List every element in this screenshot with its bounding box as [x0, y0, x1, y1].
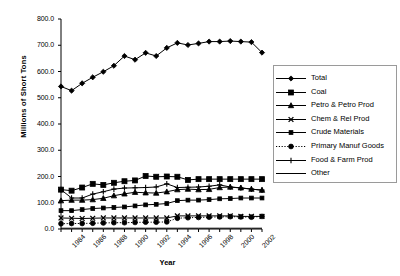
legend-marker-line-icon: [274, 166, 308, 179]
legend-label: Crude Materials: [308, 125, 364, 138]
legend-label: Other: [308, 166, 330, 179]
legend-marker-diamond-icon: [274, 71, 308, 84]
legend-item[interactable]: Petro & Petro Prod: [274, 98, 398, 111]
legend-label: Chem & Rel Prod: [308, 112, 369, 125]
legend-item[interactable]: Coal: [274, 85, 398, 98]
legend-marker-x-icon: [274, 112, 308, 125]
legend-marker-plus-icon: [274, 153, 308, 166]
legend-label: Food & Farm Prod: [308, 153, 373, 166]
legend-marker-square-small-icon: [274, 125, 308, 138]
legend-marker-triangle-icon: [274, 98, 308, 111]
legend-marker-circle-icon: [274, 139, 308, 152]
legend-item[interactable]: Total: [274, 71, 398, 84]
chart-legend: TotalCoalPetro & Petro ProdChem & Rel Pr…: [273, 65, 397, 183]
legend-item[interactable]: Chem & Rel Prod: [274, 112, 398, 125]
legend-marker-square-icon: [274, 85, 308, 98]
legend-item[interactable]: Other: [274, 166, 398, 179]
legend-item[interactable]: Primary Manuf Goods: [274, 139, 398, 152]
legend-label: Petro & Petro Prod: [308, 98, 374, 111]
legend-item[interactable]: Food & Farm Prod: [274, 153, 398, 166]
legend-label: Coal: [308, 85, 326, 98]
legend-item[interactable]: Crude Materials: [274, 125, 398, 138]
chart-figure: Millions of Short Tons Year 0.0100.0200.…: [0, 0, 400, 276]
legend-label: Primary Manuf Goods: [308, 139, 384, 152]
legend-label: Total: [308, 71, 327, 84]
